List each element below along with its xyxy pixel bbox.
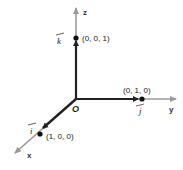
x-axis-label: x: [27, 151, 32, 160]
y-axis-label: y: [169, 105, 174, 114]
origin-label: O: [72, 104, 79, 114]
k-overarrow-icon: [56, 33, 64, 35]
k-point-label: (0, 0, 1): [82, 34, 110, 43]
j-point-label: (0, 1, 0): [123, 86, 151, 95]
j-point: [139, 96, 144, 101]
j-label-text: j: [138, 106, 142, 116]
k-vector: [73, 35, 78, 99]
j-label: j: [136, 104, 144, 116]
j-vector: [76, 96, 145, 101]
i-overarrow-icon: [28, 123, 36, 125]
k-point: [73, 35, 78, 40]
coordinate-diagram: z y x O (0, 0, 1) (0, 1, 0) (1, 0, 0) k …: [0, 0, 183, 170]
i-label: i: [28, 123, 36, 136]
i-vector: [37, 99, 76, 137]
z-axis-label: z: [83, 8, 87, 17]
i-label-text: i: [30, 126, 33, 136]
k-label-text: k: [57, 36, 62, 46]
k-label: k: [56, 33, 64, 46]
i-point-label: (1, 0, 0): [46, 132, 74, 141]
i-point: [37, 131, 42, 136]
